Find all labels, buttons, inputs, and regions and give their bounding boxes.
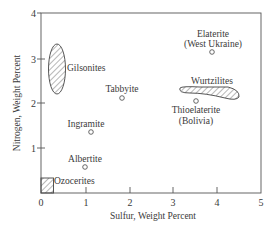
label-tabbyite: Tabbyite — [105, 84, 138, 94]
ozocerites-region — [41, 178, 54, 193]
x-tick-label: 2 — [128, 197, 133, 208]
y-tick-label: 2 — [31, 98, 36, 109]
label-albertite: Albertite — [68, 154, 102, 164]
y-axis-title: Nitrogen, Weight Percent — [12, 54, 22, 151]
label-ozocerites: Ozocerites — [54, 176, 95, 186]
y-tick-label: 1 — [31, 143, 36, 154]
label-thioelaterite-location: (Bolivia) — [179, 116, 213, 127]
wurtzilites-region — [180, 87, 239, 100]
label-ingramite: Ingramite — [68, 119, 105, 129]
data-point-albertite — [83, 165, 88, 170]
x-axis — [86, 187, 217, 193]
label-elaterite: Elaterite — [197, 29, 229, 39]
x-tick-label: 5 — [259, 197, 264, 208]
data-point-thioelaterite — [194, 99, 199, 104]
scatter-chart: 4 3 2 1 0 1 2 3 4 5 Sulfur, Weight Perce… — [0, 0, 277, 234]
data-point-elaterite — [210, 50, 215, 55]
label-elaterite-location: (West Ukraine) — [184, 39, 242, 50]
label-thioelaterite: Thioelaterite — [172, 105, 221, 115]
x-tick-label: 0 — [39, 197, 44, 208]
label-wurtzilites: Wurtzilites — [191, 76, 233, 86]
x-tick-label: 3 — [171, 197, 176, 208]
x-axis-title: Sulfur, Weight Percent — [110, 211, 196, 221]
data-point-tabbyite — [120, 96, 125, 101]
x-tick-label: 4 — [215, 197, 220, 208]
gilsonites-region — [49, 44, 66, 94]
y-tick-label: 3 — [31, 54, 36, 65]
y-tick-label: 4 — [31, 8, 36, 19]
data-point-ingramite — [89, 130, 94, 135]
label-gilsonites: Gilsonites — [67, 63, 106, 73]
x-tick-label: 1 — [84, 197, 89, 208]
